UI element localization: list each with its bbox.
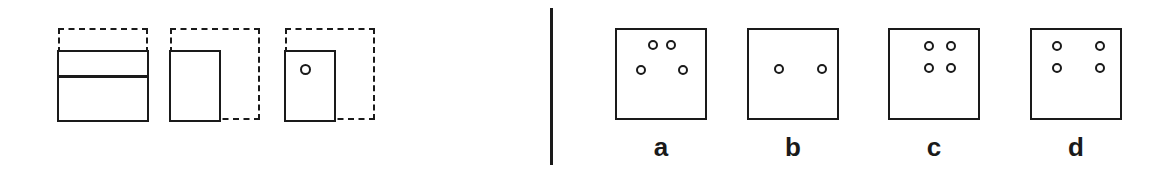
figure-root: abcd	[0, 0, 1172, 178]
circle-marker-icon	[636, 65, 646, 75]
ghost-figure-1	[58, 28, 148, 120]
circle-marker-icon	[817, 64, 827, 74]
ghost-figure-2	[170, 28, 260, 120]
circle-marker-icon	[648, 40, 658, 50]
circle-marker-icon	[946, 41, 956, 51]
circle-marker-icon	[1052, 63, 1062, 73]
option-label-d: d	[1030, 132, 1122, 162]
circle-marker-icon	[678, 65, 688, 75]
solid-rectangle	[169, 50, 221, 122]
partial-occlusion-panel	[0, 0, 551, 178]
circle-marker-icon	[1095, 63, 1105, 73]
option-box-c[interactable]	[888, 28, 980, 120]
option-label-a: a	[615, 132, 707, 162]
circle-marker-icon	[1052, 41, 1062, 51]
circle-marker-icon	[924, 63, 934, 73]
solid-rectangle	[284, 50, 336, 122]
rectangle-split-line	[59, 75, 147, 78]
circle-marker-icon	[774, 64, 784, 74]
dot-pattern-options: abcd	[552, 0, 1172, 178]
solid-rectangle	[57, 50, 149, 122]
option-label-c: c	[888, 132, 980, 162]
circle-marker-icon	[666, 40, 676, 50]
circle-marker-icon	[924, 41, 934, 51]
option-box-b[interactable]	[747, 28, 839, 120]
ghost-figure-3	[285, 28, 375, 120]
option-label-b: b	[747, 132, 839, 162]
circle-marker-icon	[1095, 41, 1105, 51]
option-box-a[interactable]	[615, 28, 707, 120]
option-box-d[interactable]	[1030, 28, 1122, 120]
circle-marker-icon	[946, 63, 956, 73]
circle-marker-icon	[300, 64, 311, 75]
